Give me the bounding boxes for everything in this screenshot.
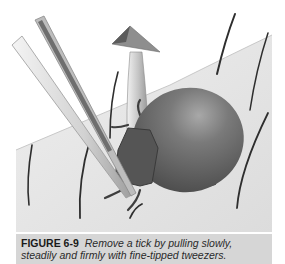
tick-removal-illustration [0,0,285,232]
figure-caption: FIGURE 6-9Remove a tick by pulling slowl… [16,234,272,264]
figure-label: FIGURE 6-9 [21,237,79,249]
